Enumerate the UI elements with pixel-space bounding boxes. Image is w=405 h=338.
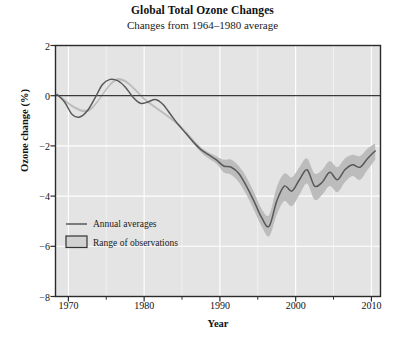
- chart-title: Global Total Ozone Changes: [0, 4, 405, 16]
- legend-label-range-of-observations: Range of observations: [93, 238, 178, 248]
- y-tick-label: −4: [20, 191, 50, 202]
- x-tick-label: 2000: [274, 300, 318, 311]
- y-tick-label: −2: [20, 140, 50, 151]
- legend-label-annual-averages: Annual averages: [93, 219, 157, 229]
- chart-subtitle: Changes from 1964–1980 average: [0, 19, 405, 31]
- y-tick-label: 2: [20, 40, 50, 51]
- plot-area: Annual averagesRange of observations: [0, 0, 405, 338]
- legend-box-swatch: [66, 236, 87, 248]
- x-tick-label: 2010: [349, 300, 393, 311]
- y-tick-label: −6: [20, 241, 50, 252]
- y-tick-label: 0: [20, 90, 50, 101]
- x-tick-label: 1980: [122, 300, 166, 311]
- ozone-change-chart: Global Total Ozone Changes Changes from …: [0, 0, 405, 338]
- x-tick-label: 1970: [46, 300, 90, 311]
- x-tick-label: 1990: [198, 300, 242, 311]
- x-axis-label: Year: [55, 318, 381, 329]
- y-axis-tick-labels: 20−2−4−6−8: [18, 0, 50, 338]
